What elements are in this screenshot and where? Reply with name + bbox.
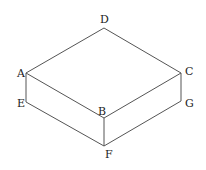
labels: A B C D E F G xyxy=(16,13,194,161)
vertex-label-g: G xyxy=(185,97,194,110)
edge-ba xyxy=(26,73,104,118)
edge-dc xyxy=(104,28,181,73)
vertex-label-a: A xyxy=(16,67,26,80)
edge-fg xyxy=(104,101,181,146)
vertex-label-e: E xyxy=(17,97,25,110)
vertex-label-f: F xyxy=(105,148,113,161)
vertex-label-d: D xyxy=(100,13,109,26)
vertex-label-b: B xyxy=(98,105,106,118)
edge-ad xyxy=(26,28,104,73)
box-diagram: A B C D E F G xyxy=(0,0,206,170)
vertex-label-c: C xyxy=(185,65,193,78)
edge-cb xyxy=(104,73,181,118)
edge-ef xyxy=(26,102,104,146)
edges xyxy=(26,28,181,146)
